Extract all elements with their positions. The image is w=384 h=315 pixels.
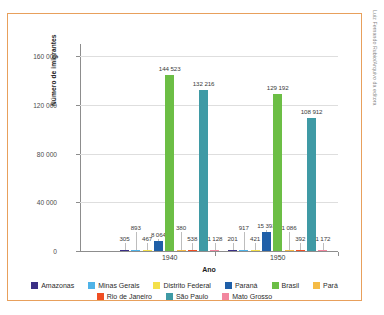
legend-item-label: Mato Grosso	[232, 293, 272, 300]
bar	[165, 75, 174, 251]
bar-value-label: 538	[187, 235, 197, 242]
legend-item[interactable]: Paraná	[225, 282, 258, 289]
value-leader-line	[125, 243, 126, 250]
x-axis	[80, 251, 338, 252]
value-leader-line	[300, 243, 301, 250]
legend-item-label: Pará	[323, 282, 338, 289]
legend-swatch-icon	[272, 282, 279, 289]
gridline	[80, 105, 338, 106]
bar	[177, 250, 186, 251]
bar-value-label: 1 172	[315, 235, 330, 242]
legend-item[interactable]: Pará	[313, 282, 338, 289]
bar	[318, 250, 327, 251]
bar-value-label: 144 523	[159, 65, 181, 72]
bar-value-label: 108 912	[301, 108, 323, 115]
y-axis	[80, 44, 81, 252]
legend-item[interactable]: São Paulo	[166, 293, 208, 300]
legend-swatch-icon	[222, 293, 229, 300]
y-axis-tick	[76, 56, 80, 57]
bar	[296, 250, 305, 251]
legend-item[interactable]: Amazonas	[31, 282, 74, 289]
image-credit: Luiz Fernando Rubio/Arquivo da editora	[368, 10, 382, 170]
bar-value-label: 392	[295, 235, 305, 242]
x-axis-separator-tick	[215, 252, 216, 256]
bar	[228, 250, 237, 251]
chart-legend: AmazonasMinas GeraisDistrito FederalPara…	[22, 282, 347, 300]
value-leader-line	[266, 230, 267, 232]
value-leader-line	[215, 243, 216, 250]
bar	[239, 250, 248, 251]
legend-item-label: Distrito Federal	[163, 282, 210, 289]
bar-value-label: 380	[176, 224, 186, 231]
value-leader-line	[147, 243, 148, 250]
bar	[285, 250, 294, 251]
y-axis-tick	[76, 202, 80, 203]
value-leader-line	[233, 243, 234, 250]
value-leader-line	[192, 243, 193, 250]
value-leader-line	[323, 243, 324, 250]
legend-swatch-icon	[31, 282, 38, 289]
legend-swatch-icon	[313, 282, 320, 289]
legend-item-label: São Paulo	[176, 293, 208, 300]
legend-item[interactable]: Brasil	[272, 282, 300, 289]
y-axis-tick-label: 160 000	[0, 53, 57, 60]
bar-value-label: 132 216	[193, 80, 215, 87]
y-axis-tick	[76, 251, 80, 252]
bar	[210, 250, 219, 251]
bar	[262, 232, 271, 251]
bar	[307, 118, 316, 251]
legend-swatch-icon	[97, 293, 104, 300]
legend-item-label: Minas Gerais	[98, 282, 139, 289]
value-leader-line	[136, 232, 137, 250]
x-axis-separator-tick	[338, 252, 339, 256]
bar	[131, 250, 140, 251]
bar	[199, 90, 208, 251]
y-axis-tick-label: 80 000	[0, 150, 57, 157]
x-axis-title: Ano	[80, 266, 338, 273]
y-axis-title: Número de imigrantes	[50, 34, 57, 106]
legend-swatch-icon	[166, 293, 173, 300]
gridline	[80, 56, 338, 57]
bar	[251, 250, 260, 251]
legend-item-label: Brasil	[282, 282, 300, 289]
legend-item[interactable]: Distrito Federal	[153, 282, 210, 289]
legend-swatch-icon	[88, 282, 95, 289]
value-leader-line	[181, 232, 182, 250]
bar-value-label: 1 128	[207, 235, 222, 242]
value-leader-line	[158, 239, 159, 241]
value-leader-line	[289, 232, 290, 250]
x-axis-group-label: 1950	[270, 254, 286, 261]
y-axis-tick	[76, 154, 80, 155]
legend-item[interactable]: Rio de Janeiro	[97, 293, 152, 300]
bar	[154, 241, 163, 251]
bar-value-label: 1 086	[282, 224, 297, 231]
chart-frame: 3058934678 064144 523380538132 2161 1282…	[7, 13, 362, 301]
bar-value-label: 8 064	[151, 231, 166, 238]
bar-value-label: 421	[250, 235, 260, 242]
bar-value-label: 201	[227, 235, 237, 242]
y-axis-tick-label: 120 000	[0, 101, 57, 108]
bar-value-label: 305	[119, 235, 129, 242]
x-axis-group-label: 1940	[162, 254, 178, 261]
legend-item[interactable]: Minas Gerais	[88, 282, 139, 289]
bar	[143, 250, 152, 251]
legend-item-label: Paraná	[235, 282, 258, 289]
gridline	[80, 202, 338, 203]
value-leader-line	[244, 232, 245, 250]
legend-swatch-icon	[225, 282, 232, 289]
bar-value-label: 129 192	[267, 84, 289, 91]
y-axis-tick-label: 0	[0, 248, 57, 255]
bar	[188, 250, 197, 251]
legend-item-label: Amazonas	[41, 282, 74, 289]
y-axis-tick	[76, 105, 80, 106]
bar	[120, 250, 129, 251]
legend-item[interactable]: Mato Grosso	[222, 293, 272, 300]
bar-value-label: 893	[131, 224, 141, 231]
plot-area: 3058934678 064144 523380538132 2161 1282…	[80, 44, 338, 252]
bar-value-label: 917	[239, 224, 249, 231]
y-axis-tick-label: 40 000	[0, 199, 57, 206]
gridline	[80, 154, 338, 155]
legend-swatch-icon	[153, 282, 160, 289]
legend-item-label: Rio de Janeiro	[107, 293, 152, 300]
value-leader-line	[255, 243, 256, 250]
